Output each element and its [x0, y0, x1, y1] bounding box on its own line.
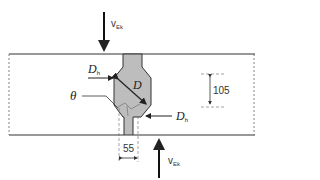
theta-label: θ	[70, 89, 76, 102]
dh-left-label: Dh	[88, 63, 100, 76]
dh-right-label: Dh	[176, 110, 188, 123]
v-bottom-label: vEk	[168, 156, 180, 167]
v-top-label: vEk	[111, 19, 123, 30]
notch-shape	[114, 54, 151, 135]
width-dimension-label: 55	[123, 144, 134, 154]
d-label: D	[133, 79, 142, 91]
theta-leader	[82, 96, 118, 108]
height-dimension-label: 105	[213, 86, 230, 96]
